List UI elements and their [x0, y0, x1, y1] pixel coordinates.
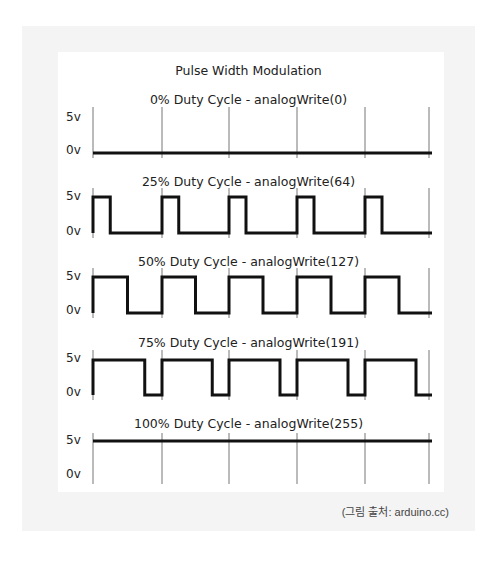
figure-caption: (그림 출처: arduino.cc) — [342, 503, 449, 519]
waveform-50 — [93, 277, 432, 313]
pwm-waveforms — [0, 0, 497, 562]
waveform-25 — [93, 197, 432, 233]
waveform-75 — [93, 360, 432, 395]
